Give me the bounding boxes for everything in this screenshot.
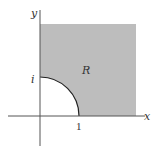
y-axis-label: y bbox=[30, 7, 38, 20]
y-tick-label: i bbox=[31, 73, 35, 86]
x-axis-label: x bbox=[144, 110, 151, 123]
region-diagram: y x R i 1 bbox=[0, 0, 158, 157]
x-tick-label: 1 bbox=[76, 120, 82, 132]
region-label: R bbox=[81, 64, 90, 77]
diagram-canvas: y x R i 1 bbox=[0, 0, 158, 157]
